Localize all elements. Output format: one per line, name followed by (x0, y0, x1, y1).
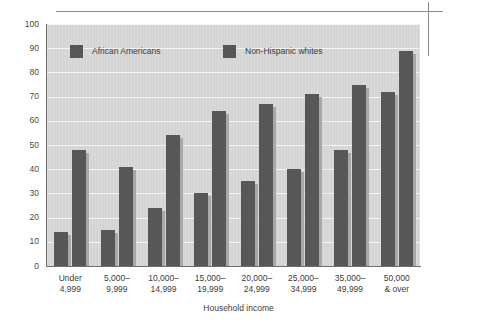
bar-chart: 0102030405060708090100 African Americans… (0, 0, 477, 325)
legend-entry[interactable]: African Americans (70, 42, 161, 60)
gridline (47, 72, 420, 73)
bar[interactable] (381, 92, 395, 266)
chart-legend: African AmericansNon-Hispanic whites (47, 42, 420, 64)
y-axis-tick-label: 80 (0, 68, 39, 77)
bar[interactable] (166, 135, 180, 266)
bar[interactable] (194, 193, 208, 266)
bar[interactable] (212, 111, 226, 266)
y-axis-tick-label: 70 (0, 92, 39, 101)
legend-label: African Americans (92, 46, 161, 56)
bar[interactable] (352, 85, 366, 267)
x-axis-title: Household income (0, 303, 477, 313)
bar[interactable] (101, 230, 115, 266)
y-axis-tick-label: 100 (0, 20, 39, 29)
gridline (47, 24, 420, 25)
legend-entry[interactable]: Non-Hispanic whites (223, 42, 322, 60)
bar[interactable] (334, 150, 348, 266)
x-axis-line (47, 266, 421, 267)
bar[interactable] (305, 94, 319, 266)
bar[interactable] (72, 150, 86, 266)
y-axis-tick-label: 0 (0, 262, 39, 271)
y-axis-tick-label: 30 (0, 189, 39, 198)
y-axis-tick-label: 60 (0, 116, 39, 125)
y-axis-tick-label: 10 (0, 237, 39, 246)
y-axis-tick-label: 50 (0, 141, 39, 150)
y-axis-tick-label: 90 (0, 44, 39, 53)
bar[interactable] (119, 167, 133, 266)
x-axis-tick-label: 50,000& over (368, 273, 426, 295)
legend-swatch (223, 45, 236, 58)
y-axis-tick-label: 20 (0, 213, 39, 222)
x-axis-tick-label-line: & over (368, 284, 426, 295)
y-axis-tick-label: 40 (0, 165, 39, 174)
legend-label: Non-Hispanic whites (245, 46, 322, 56)
bar[interactable] (54, 232, 68, 266)
bar[interactable] (259, 104, 273, 266)
bar[interactable] (148, 208, 162, 266)
bar[interactable] (399, 51, 413, 266)
bar[interactable] (241, 181, 255, 266)
bar[interactable] (287, 169, 301, 266)
x-axis-tick-label-line: 50,000 (368, 273, 426, 284)
legend-swatch (70, 45, 83, 58)
